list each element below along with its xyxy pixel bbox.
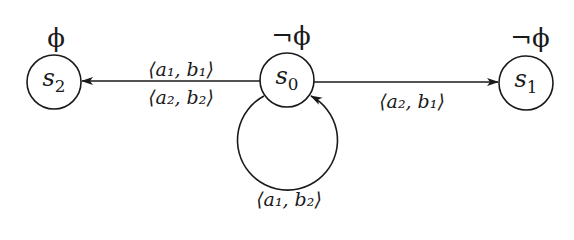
node-s2-label: s2: [42, 64, 65, 96]
node-s1-prop: ¬ϕ: [510, 23, 550, 53]
node-s1-label: s1: [514, 65, 537, 97]
node-s0-label: s0: [275, 62, 298, 94]
edge-s0-loop-label: ⟨a₁, b₂⟩: [256, 188, 322, 210]
node-s0-prop: ¬ϕ: [271, 21, 311, 51]
edge-s0-s2-label-top: ⟨a₁, b₁⟩: [148, 58, 214, 80]
node-s2-prop: ϕ: [47, 23, 65, 53]
edge-s0-s1-label: ⟨a₂, b₁⟩: [379, 90, 445, 112]
edge-s0-loop: [238, 96, 338, 190]
edge-s0-s2-label-bottom: ⟨a₂, b₂⟩: [148, 86, 214, 108]
